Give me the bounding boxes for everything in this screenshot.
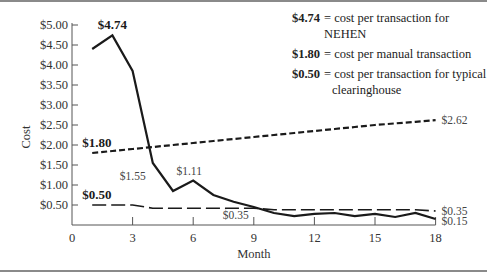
x-tick-label: 6 [190,231,196,245]
data-label: $2.62 [442,114,468,126]
x-tick-label: 18 [429,231,442,245]
y-tick-label: $0.50 [40,198,68,212]
y-tick-label: $5.00 [40,18,68,32]
y-tick-label: $2.50 [40,118,68,132]
x-axis-label: Month [237,247,271,261]
y-tick-label: $3.50 [40,78,68,92]
data-label: $0.35 [223,209,249,221]
y-tick-label: $4.00 [40,58,68,72]
legend-item-clearinghouse: $0.50 = cost per transaction for typical… [284,66,487,98]
legend-text: = cost per transaction for NEHEN [324,10,484,42]
legend-key: $1.80 [284,46,320,62]
legend-key: $0.50 [284,66,320,98]
legend-item-nehen: $4.74 = cost per transaction for NEHEN [284,10,487,42]
legend: $4.74 = cost per transaction for NEHEN $… [284,10,487,98]
data-label: $4.74 [98,17,128,32]
y-tick-label: $1.50 [40,158,68,172]
x-tick-label: 15 [369,231,382,245]
legend-key: $4.74 [284,10,320,42]
data-label: $1.80 [82,135,111,150]
x-tick-label: 0 [69,231,75,245]
x-tick-label: 3 [129,231,135,245]
y-tick-label: $3.00 [40,98,68,112]
legend-text: = cost per manual transaction [324,46,484,62]
legend-text: = cost per transaction for typical clear… [324,66,487,98]
legend-item-manual: $1.80 = cost per manual transaction [284,46,487,62]
y-tick-label: $1.00 [40,178,68,192]
y-tick-label: $2.00 [40,138,68,152]
x-tick-label: 12 [308,231,321,245]
x-tick-label: 9 [251,231,257,245]
y-axis-label: Cost [19,125,33,148]
data-label: $1.55 [120,170,146,182]
data-label: $1.11 [176,165,202,177]
y-tick-label: $4.50 [40,38,68,52]
data-label: $0.50 [82,187,111,202]
data-label: $0.15 [442,215,468,227]
